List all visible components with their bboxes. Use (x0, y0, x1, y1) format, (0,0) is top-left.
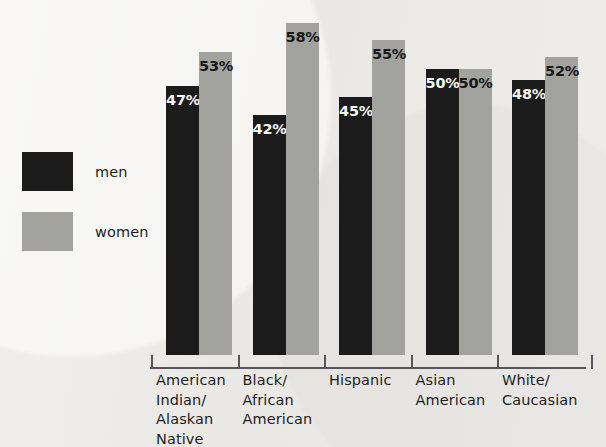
category-label-2: Black/AfricanAmerican (243, 371, 313, 430)
category-label-line: White/ (502, 371, 578, 391)
bar-women-5: 52% (545, 57, 578, 355)
category-label-line: Hispanic (329, 371, 392, 391)
bar-men-2: 42% (253, 115, 286, 355)
category-label-line: American (243, 410, 313, 430)
bar-value-label: 48% (512, 86, 545, 102)
category-label-line: American (416, 391, 486, 411)
category-label-line: Asian (416, 371, 486, 391)
category-axis (150, 355, 586, 369)
bar-value-label: 42% (253, 121, 286, 137)
bar-chart: men women 47%53%42%58%45%55%50%50%48%52%… (0, 0, 606, 447)
category-label-line: American (156, 371, 226, 391)
bar-women-2: 58% (286, 23, 319, 355)
bar-women-3: 55% (372, 40, 405, 355)
category-label-5: White/Caucasian (502, 371, 578, 410)
category-label-line: Indian/ (156, 391, 226, 411)
bar-value-label: 52% (545, 63, 578, 79)
category-label-3: Hispanic (329, 371, 392, 391)
axis-tick (591, 355, 593, 369)
bar-women-4: 50% (459, 69, 492, 355)
category-label-line: Alaskan (156, 410, 226, 430)
bar-men-5: 48% (512, 80, 545, 355)
bar-value-label: 50% (426, 75, 459, 91)
category-label-line: Native (156, 430, 226, 447)
category-labels: AmericanIndian/AlaskanNativeBlack/Africa… (150, 371, 606, 447)
axis-tick (411, 355, 413, 369)
legend-item-men: men (22, 152, 152, 191)
legend-item-women: women (22, 212, 152, 251)
bar-men-1: 47% (166, 86, 199, 355)
legend-label-men: men (95, 164, 128, 180)
axis-baseline (150, 367, 586, 369)
legend-swatch-men (22, 152, 73, 191)
category-label-1: AmericanIndian/AlaskanNative (156, 371, 226, 447)
legend-label-women: women (95, 224, 148, 240)
bar-value-label: 55% (372, 46, 405, 62)
plot-area: 47%53%42%58%45%55%50%50%48%52% (150, 0, 586, 355)
bar-men-3: 45% (339, 97, 372, 355)
bar-value-label: 53% (199, 58, 232, 74)
category-label-line: Caucasian (502, 391, 578, 411)
category-label-4: AsianAmerican (416, 371, 486, 410)
bar-value-label: 45% (339, 103, 372, 119)
axis-tick (238, 355, 240, 369)
axis-tick (497, 355, 499, 369)
bar-men-4: 50% (426, 69, 459, 355)
bar-value-label: 47% (166, 92, 199, 108)
bar-value-label: 58% (286, 29, 319, 45)
axis-tick (151, 355, 153, 369)
legend-swatch-women (22, 212, 73, 251)
bar-women-1: 53% (199, 52, 232, 355)
bar-value-label: 50% (459, 75, 492, 91)
category-label-line: Black/ (243, 371, 313, 391)
category-label-line: African (243, 391, 313, 411)
axis-tick (324, 355, 326, 369)
chart-legend: men women (22, 152, 152, 272)
